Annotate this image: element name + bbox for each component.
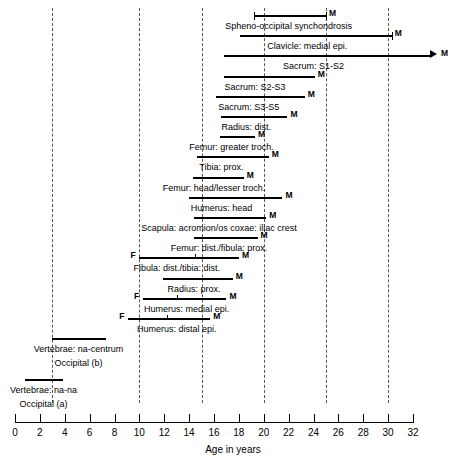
x-tick-12 [164,414,165,423]
x-tick-28 [363,414,364,423]
chart-row: MScapula: acromion/os coxae: iliac crest [0,214,466,236]
x-tick-label-0: 0 [12,427,18,439]
male-end-marker: M [261,230,268,240]
male-end-marker: M [308,89,315,99]
row-label: Femur: greater troch. [189,141,274,153]
female-start-marker: F [119,311,124,321]
chart-row: MFHumerus: distal epi. [0,315,466,337]
male-end-marker: M [242,250,249,260]
female-start-marker: F [134,291,139,301]
range-bar [224,55,430,57]
bar-start-tick [254,12,255,20]
range-bar [240,35,392,37]
x-tick-label-16: 16 [208,427,219,439]
x-tick-30 [388,414,389,423]
bar-split-tick [195,254,196,259]
range-bar [163,278,233,280]
range-bar [216,96,304,98]
range-bar [220,136,255,138]
chart-row: MHumerus: head [0,194,466,216]
x-tick-label-20: 20 [258,427,269,439]
x-tick-label-28: 28 [358,427,369,439]
x-tick-14 [189,414,190,423]
row-label: Clavicle: medial epi. [267,40,347,52]
row-label: Radius: prox. [168,283,221,295]
chart-row: MFemur: dist./fibula: prox. [0,234,466,256]
x-tick-label-6: 6 [87,427,93,439]
x-tick-6 [90,414,91,423]
bar-split-tick [177,295,178,300]
range-bar [224,76,315,78]
range-bar [25,379,64,381]
row-label: Fibula: dist./tibia: dist. [133,262,220,274]
chart-row: MRadius: dist. [0,113,466,135]
age-range-chart: MSpheno-occipital synchondrosisMClavicle… [0,0,466,468]
x-tick-8 [115,414,116,423]
x-tick-label-26: 26 [333,427,344,439]
row-label: Humerus: distal epi. [137,323,217,335]
x-tick-2 [40,414,41,423]
x-tick-0 [15,414,16,423]
x-tick-26 [338,414,339,423]
chart-row: MFemur: greater troch. [0,133,466,155]
male-end-marker: M [318,69,325,79]
male-end-marker: M [441,48,448,58]
row-label: Scapula: acromion/os coxae: iliac crest [141,222,297,234]
bar-split-tick [167,315,168,320]
chart-row: Vertebrae: na-na [0,376,466,398]
male-end-marker: M [272,149,279,159]
row-label: Sacrum: S1-S2 [283,60,344,72]
x-tick-label-22: 22 [283,427,294,439]
male-end-marker: M [247,170,254,180]
x-tick-32 [413,414,414,423]
chart-row: MFHumerus: medial epi. [0,295,466,317]
range-bar [254,15,326,17]
x-tick-label-10: 10 [134,427,145,439]
x-tick-label-12: 12 [159,427,170,439]
plot-area: MSpheno-occipital synchondrosisMClavicle… [0,0,466,408]
row-label: Sacrum: S3-S5 [218,101,279,113]
range-bar [193,177,244,179]
range-bar [221,116,287,118]
row-label: Femur: dist./fibula: prox. [171,242,268,254]
row-label: Vertebrae: na-na [10,384,77,396]
row-label: Femur: head/lesser troch. [163,182,266,194]
chart-row: MFFibula: dist./tibia: dist. [0,254,466,276]
chart-row: MClavicle: medial epi. [0,32,466,54]
female-start-marker: F [130,250,135,260]
x-tick-16 [214,414,215,423]
range-bar [139,257,239,259]
x-tick-label-18: 18 [233,427,244,439]
chart-row: MSacrum: S2-S3 [0,73,466,95]
x-tick-10 [139,414,140,423]
range-bar [143,298,226,300]
chart-row: MTibia: prox. [0,153,466,175]
arrowhead-icon [430,50,437,58]
bar-end-tick [326,12,327,20]
x-tick-label-24: 24 [308,427,319,439]
x-tick-label-14: 14 [184,427,195,439]
male-end-marker: M [269,210,276,220]
row-label: Humerus: head [191,202,253,214]
x-tick-24 [314,414,315,423]
x-tick-22 [289,414,290,423]
male-end-marker: M [213,311,220,321]
male-end-marker: M [285,190,292,200]
chart-row: MFemur: head/lesser troch. [0,174,466,196]
x-axis-title: Age in years [0,444,466,456]
x-tick-20 [264,414,265,423]
row-label: Sacrum: S2-S3 [225,81,286,93]
range-bar [194,237,257,239]
x-tick-label-8: 8 [112,427,118,439]
range-bar [194,217,266,219]
male-end-marker: M [329,8,336,18]
chart-row: MSacrum: S1-S2 [0,52,466,74]
bar-end-tick [392,32,393,40]
male-end-marker: M [395,28,402,38]
male-end-marker: M [236,271,243,281]
x-tick-18 [239,414,240,423]
row-label: Occipital (b) [54,357,102,369]
x-tick-4 [65,414,66,423]
chart-row: Occipital (b) [0,355,466,377]
chart-row: Vertebrae: na-centrum [0,335,466,357]
